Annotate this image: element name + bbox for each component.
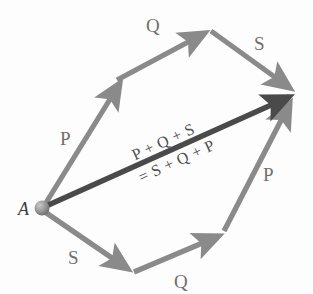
vector-addition-diagram: A P Q S S Q P P + Q + S = S + Q + P xyxy=(0,0,313,294)
point-label-a: A xyxy=(17,199,30,219)
vector-label-s-lower: S xyxy=(68,247,79,268)
vector-canvas: A P Q S S Q P P + Q + S = S + Q + P xyxy=(0,0,313,294)
vector-label-s-upper: S xyxy=(254,33,265,54)
start-point-node xyxy=(35,201,50,216)
vector-label-p-lower: P xyxy=(263,164,274,185)
vector-label-p-upper: P xyxy=(60,128,71,149)
vector-arrow-q-upper xyxy=(117,33,205,80)
vector-arrow-s-lower xyxy=(45,212,128,269)
vector-arrow-resultant xyxy=(44,97,289,207)
vector-label-q-upper: Q xyxy=(146,15,160,36)
vector-arrow-q-lower xyxy=(134,236,219,272)
vector-arrow-s-upper xyxy=(211,31,290,88)
vector-label-q-lower: Q xyxy=(174,271,188,292)
